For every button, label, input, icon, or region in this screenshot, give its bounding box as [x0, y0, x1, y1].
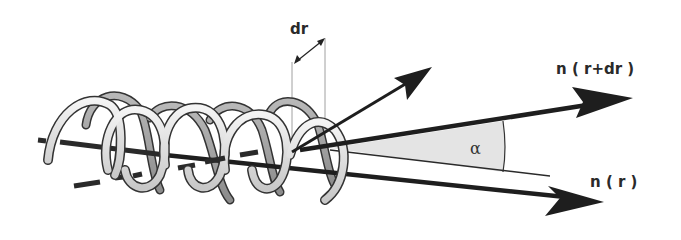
n-r-label: n ( r )	[590, 173, 637, 191]
director-n-r	[165, 155, 604, 216]
dr-label: dr	[290, 20, 308, 38]
n-r-plus-dr-label: n ( r+dr )	[556, 60, 634, 78]
helix-director-diagram	[0, 0, 681, 240]
alpha-label: α	[470, 139, 481, 158]
